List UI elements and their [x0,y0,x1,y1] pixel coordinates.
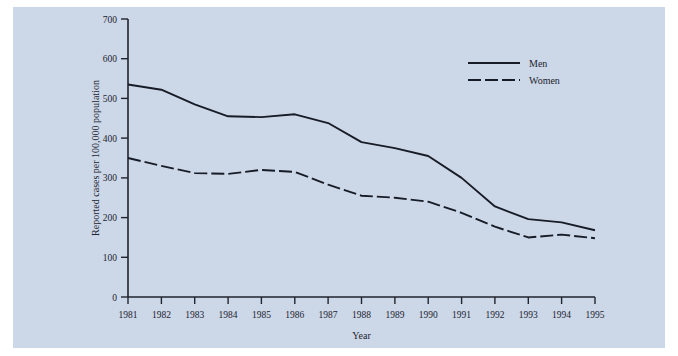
x-tick-label: 1991 [452,310,471,320]
legend-label-women: Women [529,75,560,86]
x-axis-title: Year [352,330,371,341]
y-tick-label: 400 [103,134,118,144]
x-axis-ticks [128,297,595,304]
y-tick-label: 200 [103,213,118,223]
x-tick-label: 1982 [152,310,171,320]
x-tick-label: 1992 [485,310,504,320]
x-tick-label: 1989 [385,310,404,320]
y-tick-label: 100 [103,253,118,263]
x-tick-label: 1984 [219,310,238,320]
y-tick-label: 600 [103,54,118,64]
x-tick-label: 1986 [285,310,304,320]
x-tick-label: 1981 [119,310,138,320]
x-tick-label: 1987 [319,310,338,320]
y-tick-label: 700 [103,15,118,25]
legend-label-men: Men [529,58,547,69]
series-line-women [128,158,595,238]
y-tick-label: 0 [112,293,117,303]
x-tick-label: 1990 [419,310,438,320]
x-tick-label: 1985 [252,310,271,320]
x-tick-label: 1995 [586,310,605,320]
y-axis-ticks [121,19,128,297]
y-tick-label: 500 [103,94,118,104]
x-tick-label: 1993 [519,310,538,320]
chart-legend: Men Women [468,58,560,86]
x-tick-label: 1988 [352,310,371,320]
x-axis-tick-labels: 1981 1982 1983 1984 1985 1986 1987 1988 … [119,310,605,320]
x-tick-label: 1994 [552,310,571,320]
series-line-men [128,85,595,231]
line-chart: 0 100 200 300 400 500 600 700 [0,0,678,356]
y-axis-tick-labels: 0 100 200 300 400 500 600 700 [103,15,118,303]
y-axis-title: Reported cases per 100,000 population [90,80,101,236]
x-tick-label: 1983 [185,310,204,320]
y-tick-label: 300 [103,173,118,183]
